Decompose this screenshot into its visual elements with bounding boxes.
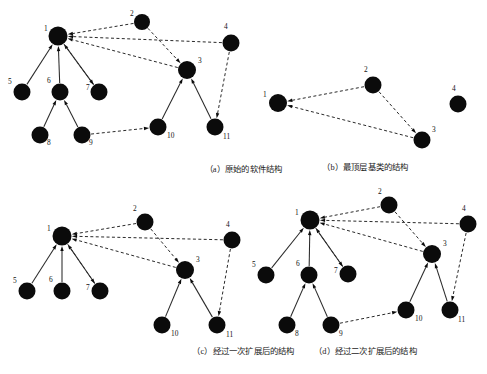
node-d-10 [398,302,415,319]
node-label-d-2: 2 [378,187,382,196]
arrowhead-9-to-6 [64,100,68,105]
node-c-3 [176,261,194,279]
arrowhead-11-to-3 [191,78,195,83]
edge-2-to-3-dashed [379,92,413,130]
node-label-a-1: 1 [44,24,48,33]
node-a-2 [134,14,150,30]
node-label-a-2: 2 [130,9,134,18]
node-c-7 [92,283,109,300]
panel-a-graph: 1234567891011 [8,9,240,147]
arrowhead-4-to-11 [216,113,219,118]
arrowhead-9-to-6 [313,283,317,288]
node-label-a-10: 10 [167,131,175,140]
edge-2-to-3-dashed [148,28,177,59]
edge-9-to-10-dashed [91,128,144,134]
graph-canvas: 1234567891011123412345671011123456789101… [0,0,487,374]
node-a-8 [32,127,49,144]
edge-10-to-3-solid [162,83,180,119]
arrowhead-2-to-3 [176,58,181,63]
edge-4-to-11-dashed [453,233,466,296]
node-label-d-8: 8 [295,329,299,338]
arrowhead-11-to-3 [190,278,194,283]
node-label-c-1: 1 [47,224,51,233]
edge-3-to-1-dashed [73,40,178,68]
node-label-c-4: 4 [226,220,230,229]
edge-3-to-1-dashed [292,107,413,138]
node-c-2 [137,214,154,231]
node-a-3 [178,61,196,79]
edge-2-to-3-dashed [151,229,176,259]
node-label-c-7: 7 [86,283,90,292]
node-label-a-6: 6 [47,76,51,85]
node-a-9 [74,127,91,144]
arrowhead-6-to-1 [308,230,311,235]
figure-software-structure-expansion: 1234567891011123412345671011123456789101… [0,0,487,374]
node-label-c-6: 6 [49,275,53,284]
edge-11-to-3-solid [193,83,211,119]
arrowhead-2-to-1 [68,32,73,35]
node-d-9 [323,317,340,334]
node-label-c-3: 3 [196,255,200,264]
arrowhead-5-to-1 [48,44,52,49]
node-a-6 [52,84,69,101]
node-label-d-6: 6 [296,259,300,268]
arrowhead-2-to-1 [72,232,77,235]
node-a-1 [49,27,68,46]
edge-4-to-11-dashed [218,52,230,113]
node-d-3 [423,245,441,263]
arrowhead-9-to-10 [144,127,149,130]
edge-2-to-1-dashed [77,224,136,234]
node-label-a-11: 11 [223,132,230,141]
arrowhead-8-to-6 [302,283,306,288]
node-label-c-2: 2 [133,204,137,213]
edge-6-to-1-solid [309,235,310,266]
node-c-11 [209,317,226,334]
node-label-a-8: 8 [47,138,51,147]
node-label-c-11: 11 [226,330,233,339]
node-label-c-10: 10 [171,329,179,338]
arrowhead-2-to-1 [320,216,325,219]
arrowhead-6-to-1 [60,246,63,251]
edge-9-to-6-solid [66,105,77,127]
arrowhead-4-to-1 [72,235,77,238]
edge-4-to-1-dashed [73,37,222,43]
edge-9-to-10-dashed [340,313,392,323]
edge-10-to-3-solid [410,267,426,302]
node-d-5 [258,267,275,284]
node-label-a-5: 5 [8,77,12,86]
node-label-d-5: 5 [252,260,256,269]
node-label-a-7: 7 [86,83,90,92]
node-label-a-3: 3 [198,56,202,65]
caption-panel-b: （b）最顶层基类的结构 [244,160,487,172]
node-d-7 [340,266,357,283]
node-label-b-1: 1 [263,90,267,99]
arrowhead-2-to-3 [421,242,426,247]
arrowhead-3-to-1 [287,105,292,108]
node-a-10 [150,119,167,136]
arrowhead-11-to-3 [435,263,438,268]
node-c-4 [224,232,241,249]
edge-2-to-1-dashed [292,87,364,101]
caption-panel-d: （d）经过二次扩展后的结构 [244,344,487,356]
arrowhead-4-to-1 [320,219,325,222]
node-label-d-9: 9 [339,329,343,338]
arrowhead-5-to-1 [52,244,56,249]
node-d-2 [381,197,398,214]
node-d-8 [279,317,296,334]
node-c-1 [53,227,72,246]
edge-4-to-1-dashed [325,220,459,223]
arrowhead-8-to-6 [53,100,57,105]
edge-4-to-1-dashed [77,236,223,239]
node-b-4 [450,96,467,113]
edge-1-to-7-dashed [64,44,91,80]
node-d-11 [442,302,459,319]
node-label-b-2: 2 [364,65,368,74]
arrowhead-2-to-1 [287,99,292,102]
arrowhead-6-to-1 [57,46,60,51]
arrowhead-10-to-3 [178,279,182,284]
edge-4-to-11-dashed [219,249,230,311]
edge-10-to-3-solid [166,283,180,316]
node-label-d-10: 10 [415,314,423,323]
arrowhead-3-to-1 [320,222,325,225]
node-b-1 [269,94,287,112]
